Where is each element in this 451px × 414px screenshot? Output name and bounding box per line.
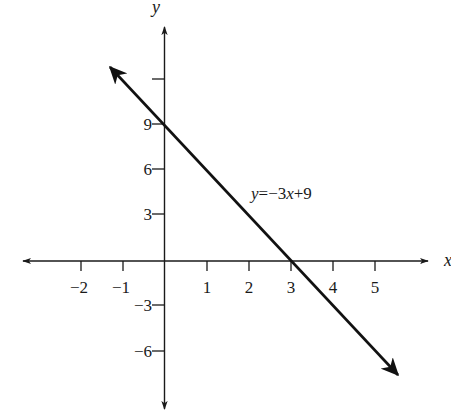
equation-y: y — [249, 184, 259, 203]
x-tick-label: −2 — [70, 278, 88, 297]
x-axis-label: x — [443, 250, 451, 270]
x-tick-label: 3 — [287, 278, 296, 297]
x-tick-label: 5 — [371, 278, 380, 297]
y-tick-label: −6 — [134, 342, 152, 361]
y-tick-labels: 9 6 3 −3 −6 — [134, 115, 152, 361]
x-tick-label: 2 — [245, 278, 254, 297]
equation-end: +9 — [294, 184, 312, 203]
coordinate-plane: y x −2 −1 1 2 3 4 5 9 6 3 −3 −6 — [0, 0, 451, 414]
y-tick-label: 6 — [144, 160, 153, 179]
y-tick-label: 3 — [144, 205, 153, 224]
x-tick-label: 4 — [329, 278, 338, 297]
x-tick-label: −1 — [112, 278, 130, 297]
equation-mid: =−3 — [259, 184, 287, 203]
x-tick-labels: −2 −1 1 2 3 4 5 — [70, 278, 379, 297]
x-tick-label: 1 — [203, 278, 212, 297]
equation-label: y=−3x+9 — [249, 184, 312, 203]
line-series — [110, 67, 398, 375]
x-ticks — [81, 261, 375, 271]
y-tick-label: −3 — [134, 296, 152, 315]
y-tick-label: 9 — [144, 115, 153, 134]
y-axis-label: y — [150, 0, 160, 17]
